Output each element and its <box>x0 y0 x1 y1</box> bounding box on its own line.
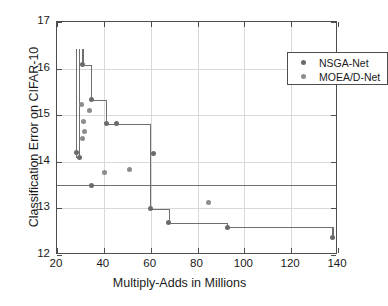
gridline-horizontal <box>57 115 336 116</box>
x-tick-label: 120 <box>270 257 310 269</box>
x-tick-label: 140 <box>317 257 357 269</box>
step-line-segment <box>150 209 169 210</box>
y-tick <box>331 115 336 116</box>
data-point <box>151 151 156 156</box>
data-point <box>81 119 86 124</box>
y-tick <box>57 22 62 23</box>
data-point <box>80 62 85 67</box>
y-tick-label: 16 <box>24 61 50 73</box>
step-line-segment <box>150 124 151 209</box>
step-line-segment <box>106 124 150 125</box>
y-tick <box>57 115 62 116</box>
gridline-vertical <box>198 22 199 253</box>
data-point <box>127 167 132 172</box>
data-point <box>89 183 94 188</box>
data-point <box>89 97 94 102</box>
legend-entry-moead-net: MOEA/D-Net <box>288 70 387 83</box>
data-point <box>77 155 82 160</box>
x-tick <box>244 248 245 253</box>
plot-area: NSGA-Net MOEA/D-Net <box>56 21 337 254</box>
data-point <box>79 102 84 107</box>
x-tick-label: 60 <box>130 257 170 269</box>
y-tick <box>331 162 336 163</box>
step-line-segment <box>106 100 107 124</box>
data-point <box>114 121 119 126</box>
data-point <box>166 220 171 225</box>
step-line-segment <box>91 65 92 100</box>
x-tick <box>198 248 199 253</box>
y-tick <box>57 255 62 256</box>
y-tick <box>57 69 62 70</box>
y-axis-title: Classification Error on CIFAR-10 <box>27 17 41 257</box>
data-point <box>330 235 335 240</box>
x-tick <box>57 248 58 253</box>
data-point <box>206 200 211 205</box>
data-point <box>80 136 85 141</box>
step-line-segment <box>169 223 227 224</box>
legend-label: MOEA/D-Net <box>319 71 380 83</box>
x-tick <box>244 22 245 27</box>
legend-marker-icon <box>301 74 306 79</box>
data-point <box>104 121 109 126</box>
data-point <box>102 170 107 175</box>
x-tick-label: 40 <box>83 257 123 269</box>
x-tick-label: 100 <box>223 257 263 269</box>
y-tick-label: 17 <box>24 14 50 26</box>
x-tick <box>291 248 292 253</box>
data-point <box>82 129 87 134</box>
gridline-horizontal <box>57 162 336 163</box>
x-tick <box>151 248 152 253</box>
chart-legend: NSGA-Net MOEA/D-Net <box>287 52 388 85</box>
x-tick-label: 80 <box>177 257 217 269</box>
legend-marker-icon <box>301 60 306 65</box>
legend-label: NSGA-Net <box>319 57 369 69</box>
y-tick <box>331 22 336 23</box>
data-point <box>87 108 92 113</box>
y-tick-label: 13 <box>24 200 50 212</box>
x-tick <box>198 22 199 27</box>
gridline-horizontal <box>57 208 336 209</box>
x-tick-label: 20 <box>36 257 76 269</box>
step-line-segment <box>227 227 332 228</box>
x-tick <box>338 22 339 27</box>
y-tick-label: 14 <box>24 154 50 166</box>
y-tick <box>331 255 336 256</box>
step-line-segment <box>76 49 77 153</box>
x-tick <box>104 22 105 27</box>
data-point <box>225 225 230 230</box>
data-point <box>148 206 153 211</box>
x-axis-title: Multiply-Adds in Millions <box>0 276 359 290</box>
x-tick <box>291 22 292 27</box>
reference-line-segment <box>57 185 336 187</box>
x-tick <box>338 248 339 253</box>
y-tick <box>331 208 336 209</box>
x-tick <box>104 248 105 253</box>
y-tick <box>57 208 62 209</box>
gridline-vertical <box>104 22 105 253</box>
y-tick <box>57 162 62 163</box>
x-tick <box>151 22 152 27</box>
gridline-vertical <box>244 22 245 253</box>
y-tick-label: 15 <box>24 107 50 119</box>
legend-entry-nsga-net: NSGA-Net <box>288 56 387 69</box>
